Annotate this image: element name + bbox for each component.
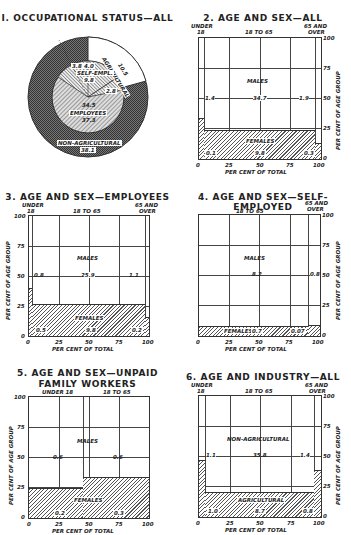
y-tick-100: 100	[322, 212, 333, 218]
col-label-18-65: 18 TO 65	[245, 29, 273, 35]
y-tick-50: 50	[17, 454, 25, 460]
males-label: MALES	[244, 255, 265, 261]
col-label-65-over-b: OVER	[139, 208, 156, 214]
y-axis-label: PER CENT OF AGE GROUP	[335, 71, 341, 150]
females-bar-65-over	[308, 325, 320, 336]
y-tick-100: 100	[323, 393, 334, 399]
males-65-over: 1.9	[299, 95, 309, 101]
x-axis-label: PER CENT OF TOTAL	[225, 169, 287, 175]
x-axis-label: PER CENT OF TOTAL	[225, 527, 287, 533]
plot-area: MALES 0.6 0.6 FEMALES 0.2 0.3	[28, 396, 150, 519]
males-18-65: 34.7	[253, 95, 267, 101]
employees-value: 37.3	[82, 117, 96, 123]
plot-area: MALES 8.2 0.8 FEMALES 0.7 0.07	[198, 214, 321, 337]
panel-occupational-status: I. OCCUPATIONAL STATUS—ALL	[0, 0, 175, 180]
y-tick-0: 0	[322, 332, 326, 338]
x-tick-0: 0	[196, 520, 200, 526]
x-tick-75: 75	[287, 520, 295, 526]
value-34-5: 34.5	[82, 102, 96, 108]
males-under18: 0.8	[34, 272, 44, 278]
non-agricultural-label: NON-AGRICULTURAL	[227, 436, 290, 442]
y-tick-100: 100	[323, 35, 334, 41]
x-tick-25: 25	[226, 520, 234, 526]
x-tick-25: 25	[55, 521, 63, 527]
females-bar-65-over	[315, 143, 321, 159]
x-tick-0: 0	[196, 339, 200, 345]
females-label: FEMALES	[73, 497, 103, 503]
plot-area: MALES 1.4 34.7 1.9 FEMALES 0.1 9.8 0.3	[198, 37, 322, 160]
x-tick-50: 50	[85, 521, 93, 527]
y-tick-75: 75	[322, 242, 330, 248]
plot-area: NON-AGRICULTURAL 1.1 35.8 1.4 AGRICULTUR…	[198, 395, 322, 518]
males-label: MALES	[77, 255, 98, 261]
self-employed-label: SELF-EMPL.	[76, 70, 114, 76]
males-18-65: 8.2	[252, 271, 262, 277]
panel-age-sex-self-employed: 4. AGE AND SEX—SELF-EMPLOYED 18 TO 65 65…	[175, 180, 351, 360]
females-65-over: 0.2	[131, 327, 143, 333]
y-tick-0: 0	[323, 513, 327, 519]
males-under18: 0.6	[53, 454, 63, 460]
agricultural-label: AGRICULTURAL	[237, 497, 285, 503]
x-tick-50: 50	[256, 162, 264, 168]
males-label: MALES	[247, 78, 268, 84]
col-label-18-65: 18 TO 65	[103, 389, 131, 395]
x-tick-25: 25	[55, 339, 63, 345]
agri-65-over: 0.8	[302, 508, 314, 514]
y-tick-25: 25	[17, 484, 25, 490]
y-axis-label: PER CENT OF AGE GROUP	[5, 241, 11, 320]
females-label: FEMALES	[245, 138, 275, 144]
agri-18-65: 8.7	[254, 508, 266, 514]
females-under18: 0.2	[54, 510, 66, 516]
y-tick-100: 100	[14, 213, 25, 219]
chart-title: 6. AGE AND INDUSTRY—ALL	[175, 372, 351, 382]
x-axis-label: PER CENT OF TOTAL	[52, 528, 114, 534]
y-tick-0: 0	[21, 514, 25, 520]
value-4-0: 4.0	[83, 63, 95, 69]
males-label: MALES	[77, 438, 98, 444]
x-tick-0: 0	[26, 339, 30, 345]
non-agricultural-value: 38.1	[80, 147, 96, 153]
x-tick-75: 75	[115, 339, 123, 345]
non-agri-under18: 1.1	[206, 452, 216, 458]
x-tick-50: 50	[255, 339, 263, 345]
agri-under18: 1.0	[207, 508, 219, 514]
y-tick-25: 25	[322, 302, 330, 308]
females-65-over: 0.07	[290, 328, 306, 334]
x-axis-label: PER CENT OF TOTAL	[225, 346, 287, 352]
y-tick-50: 50	[323, 95, 331, 101]
col-label-18: 18	[197, 29, 205, 35]
col-label-under18: UNDER 18	[42, 389, 73, 395]
x-axis-label: PER CENT OF TOTAL	[52, 346, 114, 352]
panel-age-sex-all: 2. AGE AND SEX—ALL UNDER 18 18 TO 65 65 …	[175, 0, 351, 180]
males-18-65: 25.9	[81, 272, 95, 278]
self-employed-value: 9.8	[83, 77, 95, 83]
x-tick-0: 0	[196, 162, 200, 168]
x-tick-25: 25	[225, 162, 233, 168]
employees-label: EMPLOYEES	[69, 110, 107, 116]
x-tick-25: 25	[225, 339, 233, 345]
non-agricultural-label: NON-AGRICULTURAL	[57, 140, 122, 146]
chart-title: 3. AGE AND SEX—EMPLOYEES	[0, 192, 175, 202]
y-tick-75: 75	[323, 423, 331, 429]
plot-area: MALES 0.8 25.9 1.1 FEMALES 0.5 9.8 0.2	[28, 215, 150, 337]
females-18-65: 9.8	[254, 150, 266, 156]
x-tick-75: 75	[286, 162, 294, 168]
x-tick-100: 100	[313, 162, 324, 168]
panel-unpaid-family-workers: 5. AGE AND SEX—UNPAID FAMILY WORKERS UND…	[0, 360, 175, 535]
x-tick-100: 100	[142, 339, 153, 345]
y-tick-75: 75	[17, 243, 25, 249]
males-under18: 1.4	[205, 95, 215, 101]
females-under18: 0.5	[35, 327, 47, 333]
y-tick-25: 25	[323, 125, 331, 131]
x-tick-100: 100	[313, 520, 324, 526]
x-tick-50: 50	[256, 520, 264, 526]
females-bar-65-over	[145, 317, 149, 336]
males-65-over: 1.1	[129, 272, 139, 278]
col-label-18-65: 18 TO 65	[73, 208, 101, 214]
col-label-18: 18	[27, 208, 35, 214]
y-axis-label: PER CENT OF AGE GROUP	[335, 426, 341, 505]
x-tick-75: 75	[285, 339, 293, 345]
males-18-65: 0.6	[113, 454, 123, 460]
y-tick-50: 50	[323, 453, 331, 459]
x-tick-100: 100	[142, 521, 153, 527]
